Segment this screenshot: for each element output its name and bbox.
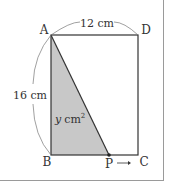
- vertex-label-a: A: [39, 23, 49, 37]
- vertex-label-c: C: [139, 155, 148, 169]
- top-dimension-arc-right: [114, 22, 138, 35]
- area-unit: cm: [64, 113, 81, 126]
- area-exponent: 2: [81, 112, 85, 120]
- vertex-label-b: B: [43, 155, 52, 169]
- diagram-frame: 12 cm 16 cm ycm2 A D B C P: [0, 0, 171, 183]
- movement-arrow-icon: [128, 161, 131, 165]
- area-variable: y: [54, 113, 62, 126]
- left-dimension-arc-top: [33, 35, 51, 84]
- top-length-label: 12 cm: [80, 17, 115, 30]
- vertex-label-p: P: [105, 157, 113, 171]
- vertex-label-d: D: [141, 23, 151, 37]
- top-dimension-arc-left: [51, 22, 80, 35]
- left-length-label: 16 cm: [13, 89, 48, 102]
- left-dimension-arc-bottom: [33, 104, 51, 155]
- area-label: ycm2: [54, 112, 85, 126]
